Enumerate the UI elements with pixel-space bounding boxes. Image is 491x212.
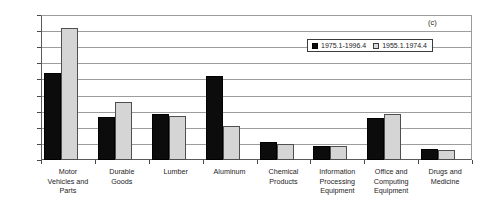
x-category-label-line: Goods (91, 177, 153, 187)
x-tick-mark (149, 160, 150, 164)
x-category-label-line: Equipment (306, 186, 368, 196)
bar-series-b (384, 114, 401, 160)
bar-series-a (313, 146, 330, 161)
x-tick-mark (203, 160, 204, 164)
x-category-label-line: Parts (37, 186, 99, 196)
x-category-label-line: Office and (360, 167, 422, 177)
bar-series-a (367, 118, 384, 160)
x-category-label-line: Aluminum (199, 167, 261, 177)
bar-group (203, 15, 257, 160)
x-category-label-line: Drugs and (414, 167, 476, 177)
legend-entry-series-b: 1955.1.1974.4 (373, 42, 427, 49)
x-tick-mark (257, 160, 258, 164)
x-tick-mark (364, 160, 365, 164)
bar-group (310, 15, 364, 160)
chart-legend: 1975.1-1996.4 1955.1.1974.4 (307, 39, 433, 52)
series-a-swatch-icon (312, 43, 318, 49)
bar-group (418, 15, 472, 160)
legend-entry-series-a: 1975.1-1996.4 (312, 42, 366, 49)
bar-series-a (260, 142, 277, 160)
bar-series-b (330, 146, 347, 160)
x-category-label-line: Equipment (360, 186, 422, 196)
bar-group (41, 15, 95, 160)
legend-label-series-b: 1955.1.1974.4 (382, 42, 427, 49)
legend-label-series-a: 1975.1-1996.4 (321, 42, 366, 49)
bar-group (257, 15, 311, 160)
x-category-label-line: Medicine (414, 177, 476, 187)
bar-group (364, 15, 418, 160)
bar-series-b (277, 144, 294, 160)
bar-series-a (44, 73, 61, 160)
x-tick-mark (310, 160, 311, 164)
bar-series-b (115, 102, 132, 160)
x-category-label: Drugs andMedicine (414, 167, 476, 186)
x-category-label-line: Processing (306, 177, 368, 187)
x-category-label: DurableGoods (91, 167, 153, 186)
x-category-label-line: Lumber (145, 167, 207, 177)
x-category-label-line: Information (306, 167, 368, 177)
bar-series-b (61, 28, 78, 160)
x-category-label-line: Motor (37, 167, 99, 177)
x-tick-mark (41, 160, 42, 164)
bar-series-b (438, 150, 455, 160)
x-category-label: Aluminum (199, 167, 261, 177)
x-tick-mark (95, 160, 96, 164)
bar-group (149, 15, 203, 160)
bar-series-b (169, 116, 186, 160)
bar-series-a (152, 114, 169, 160)
bars-layer (41, 15, 472, 160)
x-category-label: Office andComputingEquipment (360, 167, 422, 196)
x-category-label-line: Chemical (252, 167, 314, 177)
series-b-swatch-icon (373, 43, 379, 49)
x-tick-mark (418, 160, 419, 164)
bar-series-b (223, 126, 240, 160)
bar-series-a (98, 117, 115, 161)
panel-label: (c) (428, 19, 437, 27)
x-category-label: Lumber (145, 167, 207, 177)
x-category-label: ChemicalProducts (252, 167, 314, 186)
x-category-label: MotorVehicles andParts (37, 167, 99, 196)
x-category-label-line: Vehicles and (37, 177, 99, 187)
bar-chart-figure: 00.10.20.30.40.50.60.70.80.9 MotorVehicl… (0, 0, 491, 212)
bar-group (95, 15, 149, 160)
x-tick-mark (472, 160, 473, 164)
bar-series-a (206, 76, 223, 160)
x-category-label-line: Durable (91, 167, 153, 177)
x-category-label-line: Products (252, 177, 314, 187)
x-category-label: InformationProcessingEquipment (306, 167, 368, 196)
bar-series-a (421, 149, 438, 160)
x-category-label-line: Computing (360, 177, 422, 187)
